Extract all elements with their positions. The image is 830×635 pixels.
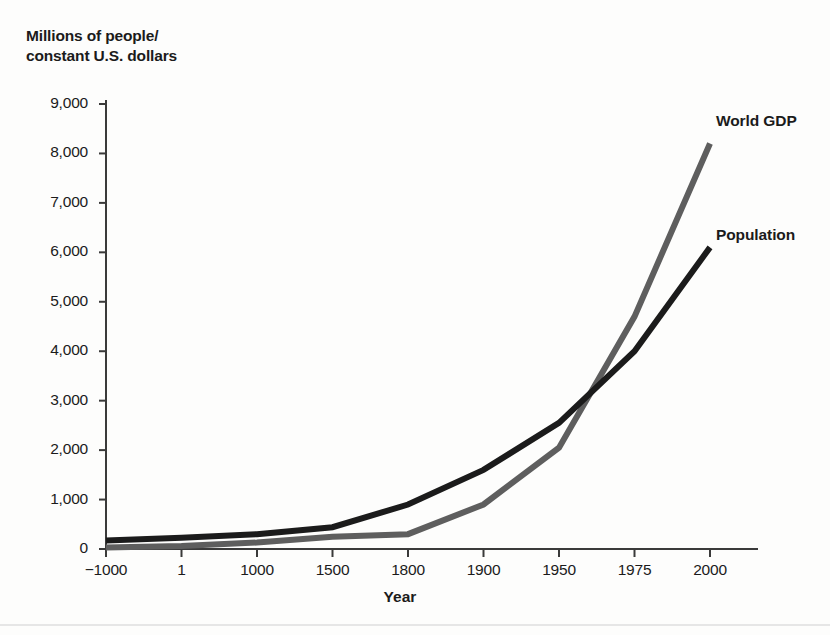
series-line-world-gdp	[106, 144, 710, 548]
y-tick-label: 0	[18, 539, 88, 557]
y-tick-label: 4,000	[18, 341, 88, 359]
y-tick-label: 9,000	[18, 94, 88, 112]
y-axis-ticks	[99, 104, 106, 549]
x-axis-title: Year	[384, 588, 417, 605]
y-tick-label: 3,000	[18, 391, 88, 409]
series-label-population: Population	[716, 226, 795, 244]
y-tick-label: 2,000	[18, 440, 88, 458]
plot-area	[0, 0, 830, 635]
chart-figure: Millions of people/ constant U.S. dollar…	[0, 0, 830, 635]
x-tick-label: 2000	[665, 561, 755, 579]
bottom-divider	[0, 624, 830, 626]
y-tick-label: 6,000	[18, 242, 88, 260]
series-line-population	[106, 247, 710, 540]
y-tick-label: 8,000	[18, 143, 88, 161]
y-tick-label: 1,000	[18, 490, 88, 508]
axis-lines	[106, 100, 758, 549]
series-lines	[106, 144, 710, 548]
y-tick-label: 7,000	[18, 193, 88, 211]
x-axis-title-wrap: Year	[0, 588, 830, 606]
x-axis-ticks	[106, 549, 710, 557]
y-tick-label: 5,000	[18, 292, 88, 310]
series-label-world-gdp: World GDP	[716, 112, 797, 130]
